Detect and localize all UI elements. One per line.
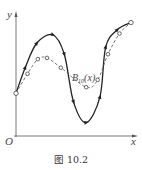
- origin-label: O: [5, 135, 13, 147]
- curve-label-argument: (x): [84, 72, 96, 84]
- circle-marker: [36, 57, 40, 61]
- circle-marker: [118, 32, 122, 36]
- circle-marker: [59, 66, 63, 70]
- curve-label: B10(x): [72, 72, 96, 84]
- circle-marker: [129, 20, 133, 24]
- figure-caption: 图 10.2: [54, 154, 88, 165]
- circle-marker: [45, 56, 49, 60]
- figure-canvas: y x O B10(x) 图 10.2: [0, 0, 142, 170]
- y-axis-arrow-icon: [15, 11, 18, 17]
- triangle-marker: [23, 65, 28, 71]
- y-axis-label: y: [6, 8, 12, 20]
- circle-marker: [106, 52, 110, 56]
- circle-marker: [26, 72, 30, 76]
- circle-marker: [14, 91, 18, 95]
- circle-marker: [96, 78, 100, 82]
- x-axis-label: x: [130, 135, 136, 147]
- circle-marker: [84, 85, 88, 89]
